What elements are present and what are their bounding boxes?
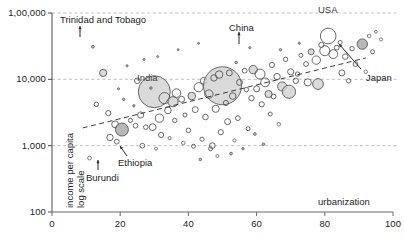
bubble-point [299,53,303,57]
bubble-point [192,144,196,148]
bubble-point [375,30,378,33]
annotation-label-burundi: Burundi [86,172,119,183]
bubble-point [172,89,181,98]
annotation-label-china: China [229,22,254,33]
bubble-point [350,46,354,50]
bubble-point [268,112,272,116]
bubble-point [140,143,145,148]
bubble-point [115,123,128,136]
bubble-point [320,46,330,56]
bubble-point [308,49,314,55]
bubble-point [133,105,135,107]
bubble-point [149,124,156,131]
bubble-point [117,88,119,90]
bubble-point [212,105,219,112]
bubble-point [198,42,200,44]
bubble-point [223,100,228,105]
bubble-point [288,69,294,75]
bubble-point [293,78,298,83]
bubble-point [203,114,209,120]
bubble-point [179,96,185,102]
x-tick-label-60: 60 [241,218,273,229]
annotation-label-india: India [137,72,158,83]
bubble-point [143,58,145,60]
bubble-point [277,122,281,126]
bubble-point [235,61,238,64]
bubbles-group [88,28,383,161]
bubble-point [155,114,163,122]
bubble-point [312,56,320,64]
x-tick-label-0: 0 [36,218,68,229]
bubble-point [346,79,350,83]
bubble-point [225,119,231,125]
y-tick-label-1000: 1,000 [0,140,46,151]
bubble-point [279,48,281,50]
annotation-label-usa: USA [318,4,338,15]
bubble-point [233,139,236,142]
bubble-point [235,116,240,121]
annotation-label-trinidad-and-tobago: Trinidad and Tobago [60,14,146,25]
y-axis-title-line2: log scale [75,171,86,209]
bubble-point [155,147,158,150]
annotation-label-ethiopia: Ethiopia [118,157,152,168]
bubble-point [188,92,196,100]
bubble-point [226,70,232,76]
bubble-point [100,69,107,76]
bubble-point [244,87,248,91]
bubble-point [183,113,187,117]
y-tick-label-10000: 10,000 [0,73,46,84]
bubble-point [357,39,367,49]
y-axis-title-line1: income per capita [64,133,75,208]
bubble-point [329,50,338,59]
bubble-point [114,139,119,144]
bubble-point [126,65,128,67]
bubble-point [122,98,124,100]
bubble-point [367,34,371,38]
bubble-point [320,28,336,44]
bubble-point [218,130,223,135]
bubble-point [128,118,132,122]
bubble-point [313,79,324,90]
bubble-point [255,69,265,79]
bubble-point [216,154,219,157]
annotation-label-japan: Japan [366,72,392,83]
bubble-point [173,118,177,122]
bubble-point [271,94,276,99]
y-tick-label-100000: 1,00,000 [0,7,46,18]
bubble-point [107,134,113,140]
bubble-point [230,152,233,155]
bubble-point [199,158,202,161]
bubble-point [339,70,345,76]
bubble-point [342,54,348,60]
x-tick-label-20: 20 [104,218,136,229]
y-tick-label-100: 100 [0,206,46,217]
bubble-point [150,87,153,90]
bubble-point [283,57,287,61]
bubble-point [249,95,254,100]
bubble-point [168,97,178,107]
bubble-point [181,141,185,145]
bubble-point [133,123,138,128]
bubble-point [338,40,342,44]
bubble-point [192,107,198,113]
bubble-point [165,107,172,114]
bubble-point [143,125,148,130]
bubble-point [304,79,311,86]
bubble-point [242,68,247,73]
bubble-point [259,102,264,107]
bubble-point [168,137,171,140]
bubble-point [298,42,300,44]
bubble-point [94,102,98,106]
bubble-point [215,71,223,79]
bubble-point [186,128,191,133]
bubble-point [237,79,243,85]
bubble-point [92,45,95,48]
bubble-point [249,47,251,49]
bubble-point [274,73,280,79]
x-axis-title: urbanization [318,196,370,207]
bubble-point [371,50,375,54]
x-tick-label-40: 40 [172,218,204,229]
bubble-point [229,93,236,100]
chart-canvas [0,0,404,246]
bubble-point [334,45,339,50]
